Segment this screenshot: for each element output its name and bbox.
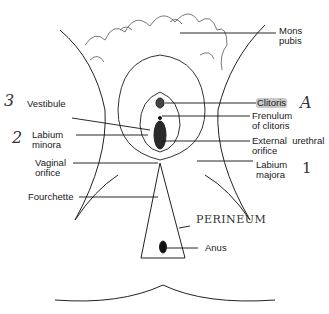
label-urethral-orifice: External urethral orifice	[252, 136, 324, 156]
pubic-hair	[85, 14, 227, 70]
label-fourchette: Fourchette	[28, 192, 73, 202]
urethral-orifice-shape	[158, 116, 161, 119]
handwritten-number-3: 3	[4, 91, 14, 110]
handwritten-number-1: 1	[302, 159, 312, 177]
handwritten-letter-a: A	[300, 93, 312, 112]
left-buttock-line	[75, 175, 118, 220]
label-labium-minora: Labium minora	[32, 130, 63, 150]
leader-perineum	[179, 226, 190, 228]
handwritten-number-2: 2	[12, 128, 22, 147]
vaginal-orifice-shape	[154, 121, 166, 149]
label-labium-majora: Labium majora	[256, 160, 287, 180]
label-clitoris: Clitoris	[256, 98, 287, 108]
label-frenulum: Frenulum of clitoris	[252, 111, 292, 131]
label-vestibule: Vestibule	[27, 99, 66, 109]
clitoris-shape	[156, 98, 164, 108]
buttocks-line	[55, 285, 275, 301]
anus-shape	[160, 241, 167, 253]
label-vaginal-orifice: Vaginal orifice	[35, 158, 66, 178]
leader-vestibule	[72, 118, 150, 130]
handwritten-perineum: PERINEUM	[196, 213, 266, 226]
label-mons-pubis: Mons pubis	[279, 26, 302, 46]
label-anus: Anus	[205, 243, 227, 253]
